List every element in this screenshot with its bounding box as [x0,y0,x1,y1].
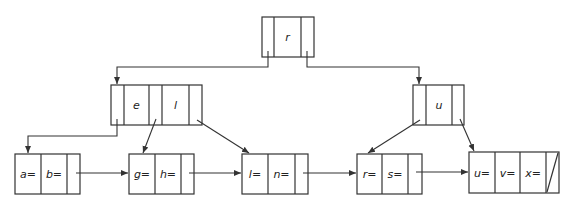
leaf-key: b= [46,168,62,181]
edge-el-to-leaf1 [28,119,117,153]
edge-root-to-u [307,51,419,84]
edge-u-to-leaf5 [460,119,474,151]
leaf-node-1: a= b= [15,154,80,194]
leaf-key: n= [273,168,289,181]
leaf-key: l= [249,168,261,181]
root-node: r [262,17,314,57]
internal-key-l: l [174,99,177,112]
internal-key-e: e [133,99,140,112]
leaf-key: r= [363,168,377,181]
leaf-key: u= [474,167,490,180]
leaf-key: a= [20,168,36,181]
leaf-key: g= [134,168,150,181]
leaf-key: h= [160,168,176,181]
edge-el-to-leaf3 [197,120,249,153]
leaf-key: s= [388,168,403,181]
leaf-key: v= [500,167,516,180]
leaf-node-2: g= h= [129,154,194,194]
internal-node-e-l: e l [111,85,202,125]
leaf-node-4: r= s= [357,154,422,194]
internal-node-u: u [413,85,464,125]
internal-key-u: u [436,99,443,112]
b-plus-tree-diagram: r e l u a= b= g= h= l= n= [0,0,575,202]
leaf-node-5: u= v= x= [469,152,559,193]
edge-root-to-el [117,51,268,84]
edge-u-to-leaf4 [368,120,420,153]
leaf-key: x= [524,167,541,180]
leaf-node-3: l= n= [242,154,308,194]
